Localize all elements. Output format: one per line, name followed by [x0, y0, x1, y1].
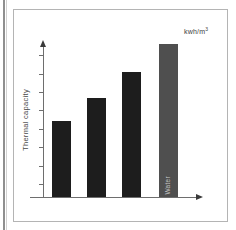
y-axis-tick: [39, 129, 44, 130]
y-axis-line: [43, 46, 44, 197]
page-edge-line-light: [6, 0, 7, 230]
bar-2: [87, 98, 106, 197]
y-axis-tick: [39, 184, 44, 185]
y-axis-tick: [39, 110, 44, 111]
y-axis-tick: [39, 55, 44, 56]
y-axis-arrow-up-icon: [40, 40, 46, 47]
y-axis-label: Thermal capacity: [21, 60, 31, 180]
x-axis-arrow-right-icon: [196, 194, 203, 200]
unit-label: kwh/m3: [184, 26, 208, 35]
bar-4: Water: [159, 44, 178, 197]
bar-label-water: Water: [165, 174, 172, 197]
y-axis-tick: [39, 92, 44, 93]
unit-base-text: kwh/m: [184, 28, 205, 35]
bar-3: [122, 72, 141, 197]
page-edge-line-dark: [3, 0, 5, 230]
y-axis-tick: [39, 166, 44, 167]
unit-superscript: 3: [205, 26, 208, 32]
bar-1: [52, 121, 71, 197]
y-axis-tick: [39, 147, 44, 148]
x-axis-line: [30, 197, 197, 198]
y-axis-tick: [39, 74, 44, 75]
